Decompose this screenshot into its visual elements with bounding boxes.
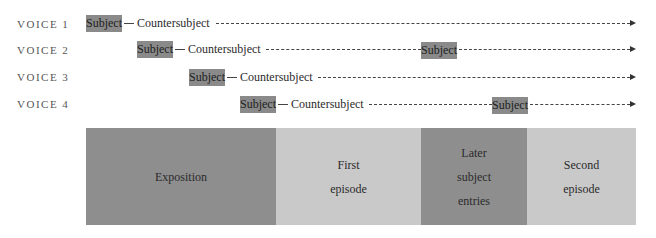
section-later-entries-line-1: Later (457, 141, 491, 165)
section-exposition-label: Exposition (155, 165, 207, 189)
voice-2-continuation-line-a (266, 49, 421, 50)
section-first-episode: First episode (276, 128, 421, 225)
voice-3-continuation-line (318, 77, 630, 78)
voice-2-arrow-icon (630, 46, 636, 52)
voice-3-countersubject: Countersubject (240, 69, 313, 86)
voice-4-later-subject: Subject (492, 97, 528, 114)
section-later-subject-entries: Later subject entries (421, 128, 527, 225)
voice-4-arrow-icon (630, 101, 636, 107)
voice-1-continuation-line (216, 23, 630, 24)
voice-2-connector (175, 49, 185, 50)
voice-3-subject: Subject (189, 69, 225, 86)
voice-4-subject: Subject (240, 96, 276, 113)
fugue-sections: Exposition First episode Later subject e… (86, 128, 636, 225)
voice-1-label: VOICE 1 (17, 17, 69, 31)
voice-1-countersubject: Countersubject (137, 15, 210, 32)
section-later-entries-line-2: subject (457, 165, 491, 189)
voice-1-subject: Subject (86, 15, 122, 32)
voice-2-subject: Subject (137, 41, 173, 58)
section-second-episode-line-2: episode (563, 177, 600, 201)
voice-2-later-subject: Subject (421, 42, 457, 59)
section-later-entries-line-3: entries (457, 189, 491, 213)
section-first-episode-line-1: First (330, 153, 367, 177)
voice-1-arrow-icon (630, 20, 636, 26)
voice-4-continuation-line-b (530, 104, 630, 105)
section-exposition: Exposition (86, 128, 276, 225)
voice-2-continuation-line-b (459, 49, 630, 50)
section-second-episode: Second episode (527, 128, 636, 225)
voice-3-arrow-icon (630, 74, 636, 80)
voice-1-connector (124, 23, 134, 24)
voice-2-countersubject: Countersubject (188, 41, 261, 58)
section-first-episode-line-2: episode (330, 177, 367, 201)
voice-4-countersubject: Countersubject (291, 96, 364, 113)
voice-3-label: VOICE 3 (17, 70, 69, 84)
voice-4-label: VOICE 4 (17, 97, 69, 111)
voice-2-label: VOICE 2 (17, 43, 69, 57)
voice-3-connector (227, 77, 237, 78)
voice-4-continuation-line-a (369, 104, 492, 105)
section-second-episode-line-1: Second (563, 153, 600, 177)
voice-4-connector (278, 104, 288, 105)
